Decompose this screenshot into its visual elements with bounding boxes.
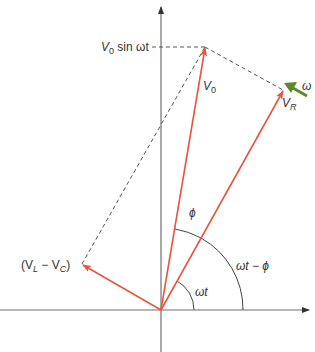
dashed-v0-vr-line (205, 47, 283, 90)
label-omega-t: ωt (195, 285, 208, 299)
label-vr: VR (282, 96, 297, 112)
label-vl-minus-vc: (VL − VC) (21, 258, 70, 274)
phasor-vl-vc (83, 265, 161, 310)
phasor-diagram: V0 sin ωt V0 VR ω (VL − VC) ϕ ωt − ϕ ωt (0, 0, 315, 352)
label-v0-sin-omega-t: V0 sin ωt (101, 40, 149, 56)
label-v0: V0 (203, 79, 216, 95)
arc-phi (175, 229, 201, 238)
arc-omega-t-minus-phi (201, 238, 243, 310)
label-omega-t-minus-phi: ωt − ϕ (236, 259, 269, 273)
label-omega: ω (302, 79, 311, 93)
arc-omega-t (177, 281, 194, 310)
label-phi: ϕ (189, 206, 196, 220)
